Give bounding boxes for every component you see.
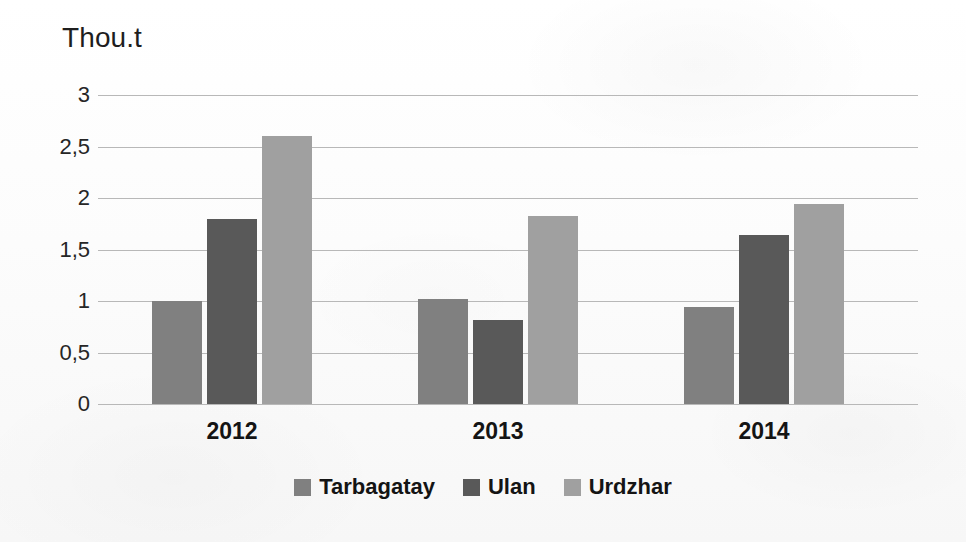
bar-ulan-2012 (207, 219, 257, 404)
bar-ulan-2013 (473, 320, 523, 404)
legend-swatch-icon (294, 479, 311, 496)
bar-tarbagatay-2014 (684, 307, 734, 404)
y-axis-tick-label: 1,5 (59, 237, 90, 263)
y-axis-tick-labels: 00,511,522,53 (48, 95, 90, 404)
legend-swatch-icon (564, 479, 581, 496)
bar-tarbagatay-2012 (152, 301, 202, 404)
y-axis-tick-label: 3 (78, 82, 90, 108)
y-axis-tick-label: 0 (78, 391, 90, 417)
gridline (98, 198, 918, 199)
bar-urdzhar-2012 (262, 136, 312, 404)
y-axis-title: Thou.t (62, 22, 142, 54)
legend-swatch-icon (463, 479, 480, 496)
bar-ulan-2014 (739, 235, 789, 404)
x-axis-tick-label-2012: 2012 (152, 418, 312, 445)
gridline (98, 95, 918, 96)
plot-area (98, 95, 918, 404)
legend-label: Tarbagatay (319, 474, 435, 500)
y-axis-tick-label: 0,5 (59, 340, 90, 366)
chart-legend: TarbagatayUlanUrdzhar (0, 474, 966, 500)
legend-item-tarbagatay: Tarbagatay (294, 474, 435, 500)
legend-item-ulan: Ulan (463, 474, 536, 500)
legend-item-urdzhar: Urdzhar (564, 474, 672, 500)
y-axis-tick-label: 2,5 (59, 134, 90, 160)
bar-urdzhar-2013 (528, 216, 578, 404)
gridline (98, 404, 918, 405)
bar-tarbagatay-2013 (418, 299, 468, 404)
legend-label: Urdzhar (589, 474, 672, 500)
chart-screenshot: Thou.t 00,511,522,53 201220132014 Tarbag… (0, 0, 966, 542)
gridline (98, 147, 918, 148)
legend-label: Ulan (488, 474, 536, 500)
x-axis-tick-label-2013: 2013 (418, 418, 578, 445)
y-axis-tick-label: 2 (78, 185, 90, 211)
x-axis-tick-label-2014: 2014 (684, 418, 844, 445)
bar-urdzhar-2014 (794, 204, 844, 404)
y-axis-tick-label: 1 (78, 288, 90, 314)
